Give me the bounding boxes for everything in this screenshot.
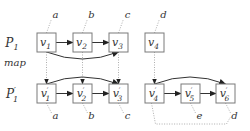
diagram-canvas: v1v2v3v4v′1v′2v′3v′4v′5v′6 abcdabcedP1P′… [0, 0, 250, 131]
node-label-v1-sub: 1 [46, 42, 51, 51]
node-v1p: v′1 [37, 84, 56, 103]
tag-v1p: a [53, 110, 59, 121]
node-label-v5p-sub: 5 [190, 94, 195, 103]
tag-tick-v6p [226, 103, 231, 113]
row-label-p1-prime: P′1 [5, 86, 18, 104]
node-v5p: v′5 [181, 84, 200, 103]
node-v3: v3 [109, 33, 128, 52]
node-v4: v4 [145, 33, 164, 52]
node-label-v2-sub: 2 [81, 42, 87, 51]
row-label-p1-prime-sub: 1 [13, 94, 18, 104]
row-label-p1: P1 [4, 36, 18, 52]
tag-v1: a [53, 9, 59, 20]
tag-tick-v2p [83, 103, 88, 113]
tag-tick-v4 [155, 19, 160, 33]
tag-v3p: c [125, 110, 131, 121]
tag-tick-v1p [47, 103, 52, 113]
node-label-v6p-sub: 6 [225, 94, 230, 103]
tag-v6p: d [231, 110, 237, 121]
tag-v5p: e [197, 110, 203, 121]
dotted-link-v4p-v6p [152, 103, 231, 124]
node-label-v3p-sub: 3 [118, 94, 123, 103]
node-label-v2p-sub: 2 [81, 94, 87, 103]
map-label: map [4, 57, 26, 68]
node-label-v3-sub: 3 [118, 42, 123, 51]
diagram-svg: v1v2v3v4v′1v′2v′3v′4v′5v′6 abcdabcedP1P′… [0, 0, 250, 131]
tag-tick-v5p [191, 103, 196, 113]
node-v2: v2 [73, 33, 92, 52]
tag-v4: d [160, 9, 166, 20]
node-v6p: v′6 [216, 84, 235, 103]
tag-v2: b [88, 9, 94, 20]
node-v1: v1 [37, 33, 56, 52]
tag-tick-v1 [47, 19, 52, 33]
node-v4p: v′4 [145, 84, 164, 103]
tag-tick-v3p [119, 103, 124, 113]
edge-v4p-v6p [155, 77, 226, 84]
row-label-p1-sub: 1 [13, 42, 18, 52]
node-label-v4p-sub: 4 [153, 94, 159, 103]
tag-tick-v3 [119, 19, 124, 33]
node-label-v4-sub: 4 [153, 42, 159, 51]
node-v3p: v′3 [109, 84, 128, 103]
tag-v3: c [125, 9, 131, 20]
node-label-v1p-sub: 1 [46, 94, 51, 103]
node-v2p: v′2 [73, 84, 92, 103]
tag-tick-v2 [83, 19, 88, 33]
tag-v2p: b [88, 110, 94, 121]
